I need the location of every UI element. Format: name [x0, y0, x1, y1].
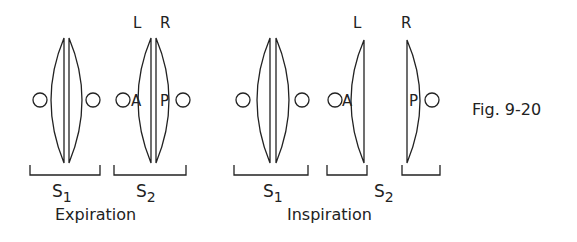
expiration-s2-group: L R A P S2: [114, 14, 190, 205]
inspiration-s2-group: L A R P S2: [327, 14, 440, 205]
s2-left-label: L: [133, 14, 142, 32]
aortic-letter: A: [131, 92, 142, 110]
heart-sound-splitting-diagram: S1 L R A P S2 Expiration S1 L A R P S2: [0, 0, 577, 242]
s2-right-label: R: [160, 14, 170, 32]
inspiration-label: Inspiration: [287, 205, 372, 224]
aortic-circle: [328, 93, 342, 107]
s2-label: S2: [136, 181, 156, 205]
pulmonic-circle: [425, 93, 439, 107]
s1-bracket: [234, 165, 308, 175]
s1-label: S1: [263, 181, 283, 205]
inspiration-s1-group: S1: [234, 38, 309, 205]
pulmonic-bracket: [402, 165, 440, 175]
aortic-circle: [116, 93, 130, 107]
s2-left-label: L: [353, 14, 362, 32]
s2-label: S2: [374, 181, 394, 205]
aortic-bracket: [327, 165, 367, 175]
s1-label: S1: [52, 181, 72, 205]
s1-right-half-ellipse: [69, 38, 82, 163]
s1-right-circle: [86, 93, 100, 107]
pulmonic-letter: P: [160, 92, 169, 110]
expiration-label: Expiration: [55, 205, 136, 224]
s1-right-circle: [295, 93, 309, 107]
aortic-half-ellipse: [351, 40, 364, 163]
figure-caption: Fig. 9-20: [472, 100, 541, 119]
s1-left-circle: [236, 93, 250, 107]
s1-left-half-ellipse: [257, 38, 270, 163]
s1-left-half-ellipse: [51, 38, 64, 163]
pulmonic-circle: [176, 93, 190, 107]
s1-right-half-ellipse: [276, 38, 289, 163]
s1-left-circle: [33, 93, 47, 107]
s2-bracket: [114, 165, 186, 175]
expiration-s1-group: S1: [30, 38, 100, 205]
pulmonic-letter: P: [409, 92, 418, 110]
s1-bracket: [30, 165, 100, 175]
aortic-letter: A: [342, 92, 353, 110]
s2-right-label: R: [401, 14, 411, 32]
